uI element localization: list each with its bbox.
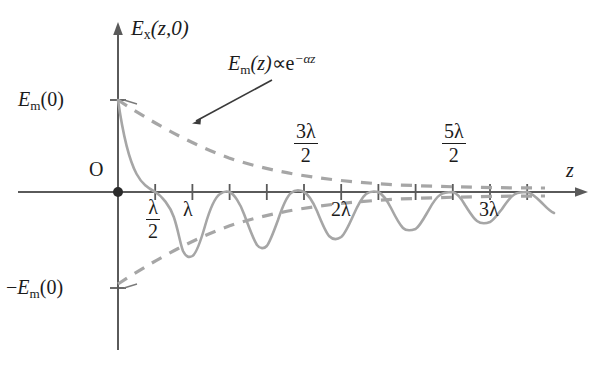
annotation-subscript: m: [240, 62, 250, 77]
neg-em0-symbol: E: [17, 276, 29, 298]
x-tick-label-three-halves-lambda: 3λ 2: [294, 120, 318, 167]
annotation-relation: ∝: [272, 52, 286, 74]
neg-em0-sign: −: [6, 276, 17, 298]
annotation-symbol: E: [228, 52, 240, 74]
x-axis-label: z: [566, 160, 574, 180]
half-lambda-denominator: 2: [146, 219, 160, 243]
x-tick-label-half-lambda: λ 2: [146, 196, 160, 243]
three-halves-numerator: 3λ: [294, 120, 318, 143]
annotation-exponent: −αz: [294, 51, 315, 66]
x-tick-label-two-lambda: 2λ: [331, 198, 351, 221]
three-halves-denominator: 2: [294, 143, 318, 167]
x-tick-label-three-lambda: 3λ: [479, 198, 499, 221]
y-axis-symbol: E: [131, 16, 144, 40]
neg-em0-subscript: m: [30, 286, 40, 301]
annotation-argument: (z): [250, 52, 271, 74]
x-tick-label-lambda: λ: [183, 198, 193, 221]
origin-dot: [113, 187, 123, 197]
half-lambda-numerator: λ: [146, 196, 160, 219]
y-axis-label: Ex(z,0): [131, 18, 189, 42]
origin-label: O: [89, 159, 103, 179]
y-axis-subscript: x: [144, 27, 151, 42]
em0-argument: (0): [40, 88, 63, 110]
y-tick-label-negative-em: −Em(0): [6, 277, 63, 300]
envelope-annotation-label: Em(z)∝e−αz: [228, 52, 315, 76]
five-halves-denominator: 2: [442, 143, 466, 167]
y-axis-argument: (z,0): [151, 16, 189, 40]
em0-subscript: m: [30, 98, 40, 113]
x-tick-label-five-halves-lambda: 5λ 2: [442, 120, 466, 167]
five-halves-numerator: 5λ: [442, 120, 466, 143]
em0-symbol: E: [18, 88, 30, 110]
neg-em0-argument: (0): [40, 276, 63, 298]
y-tick-label-positive-em: Em(0): [18, 89, 64, 112]
